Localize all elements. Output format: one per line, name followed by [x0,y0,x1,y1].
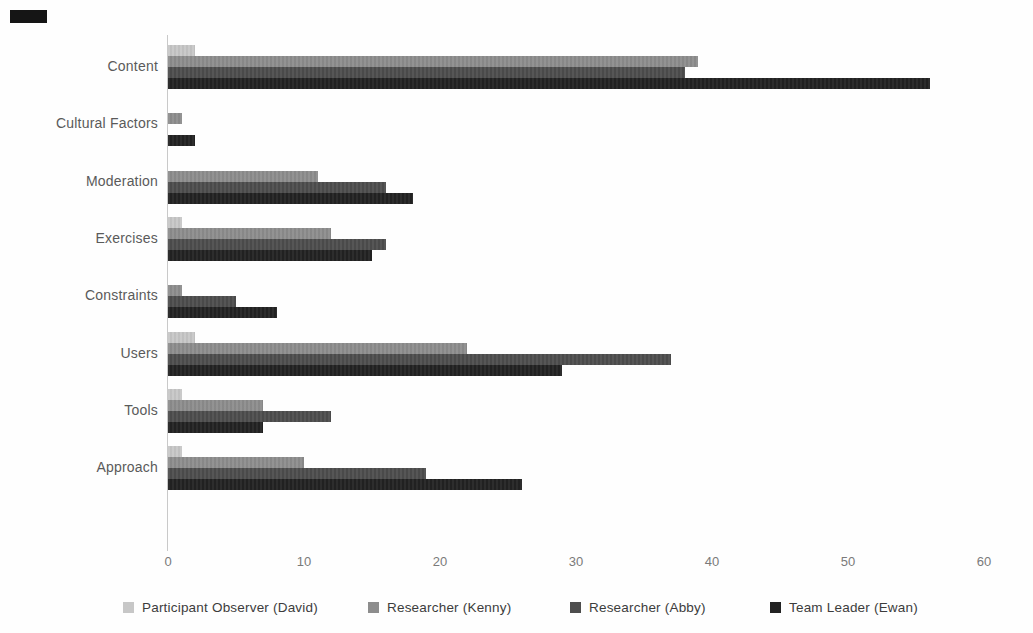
legend-item: Researcher (Kenny) [368,600,511,615]
bar-content [168,45,195,56]
bar-exercises [168,217,182,228]
bar-approach [168,468,426,479]
legend-label: Researcher (Abby) [589,600,706,615]
bar-tools [168,389,182,400]
bar-exercises [168,228,331,239]
legend-item: Participant Observer (David) [123,600,318,615]
bar-moderation [168,193,413,204]
category-label-exercises: Exercises [6,230,158,246]
legend-label: Researcher (Kenny) [387,600,511,615]
legend-label: Participant Observer (David) [142,600,318,615]
bar-content [168,56,698,67]
category-label-users: Users [6,345,158,361]
x-tick-label: 40 [705,554,719,569]
bar-content [168,78,930,89]
bar-users [168,354,671,365]
x-axis-tick-mark [167,545,168,551]
x-tick-label: 10 [297,554,311,569]
legend-label: Team Leader (Ewan) [789,600,918,615]
grouped-bar-chart: ContentCultural FactorsModerationExercis… [0,0,1033,633]
bar-exercises [168,250,372,261]
bar-cultural-factors [168,113,182,124]
scan-artifact-mark [10,10,47,23]
bar-constraints [168,296,236,307]
bar-users [168,365,562,376]
legend-swatch-icon [570,602,581,613]
x-tick-label: 60 [977,554,991,569]
bar-tools [168,400,263,411]
legend-item: Team Leader (Ewan) [770,600,918,615]
chart-legend: Participant Observer (David)Researcher (… [0,600,1033,622]
x-tick-label: 20 [433,554,447,569]
bar-constraints [168,307,277,318]
category-label-content: Content [6,58,158,74]
bar-users [168,343,467,354]
category-label-approach: Approach [6,459,158,475]
x-tick-label: 50 [841,554,855,569]
bar-constraints [168,285,182,296]
bar-tools [168,422,263,433]
bar-cultural-factors [168,135,195,146]
bar-moderation [168,171,318,182]
x-tick-label: 30 [569,554,583,569]
legend-swatch-icon [770,602,781,613]
legend-item: Researcher (Abby) [570,600,706,615]
category-label-tools: Tools [6,402,158,418]
category-label-constraints: Constraints [6,287,158,303]
bar-approach [168,479,522,490]
bar-users [168,332,195,343]
category-label-moderation: Moderation [6,173,158,189]
legend-swatch-icon [368,602,379,613]
bar-exercises [168,239,386,250]
legend-swatch-icon [123,602,134,613]
x-tick-label: 0 [164,554,171,569]
bar-tools [168,411,331,422]
category-label-cultural-factors: Cultural Factors [6,115,158,131]
bar-approach [168,446,182,457]
bar-approach [168,457,304,468]
bar-moderation [168,182,386,193]
bar-content [168,67,685,78]
